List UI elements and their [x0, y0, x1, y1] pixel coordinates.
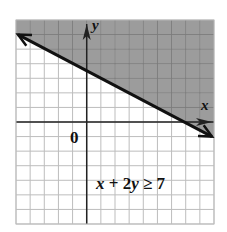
y-axis-label: y [90, 17, 99, 33]
inequality-label: x + 2y ≥ 7 [95, 174, 166, 193]
x-axis-label: x [200, 97, 209, 113]
inequality-graph: y x 0 x + 2y ≥ 7 [0, 0, 227, 232]
origin-label: 0 [70, 128, 79, 147]
